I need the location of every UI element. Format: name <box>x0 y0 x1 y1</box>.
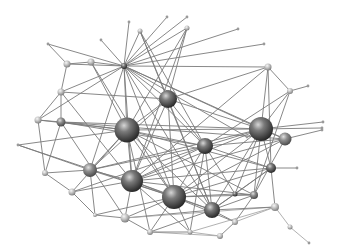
graph-node-sphere <box>159 90 177 108</box>
graph-node-sphere <box>121 63 127 69</box>
graph-edge <box>45 173 72 192</box>
edge-endpoint <box>186 16 189 19</box>
graph-node-sphere <box>271 203 279 211</box>
graph-edge <box>61 64 67 92</box>
graph-node-sphere <box>93 213 97 217</box>
graph-edge <box>168 67 268 99</box>
edge-endpoint <box>296 167 299 170</box>
graph-node-sphere <box>250 191 258 199</box>
edge-endpoint <box>128 21 131 24</box>
graph-node-sphere <box>266 163 276 173</box>
graph-node-sphere <box>217 233 223 239</box>
edge-endpoint <box>17 144 20 147</box>
graph-edge <box>150 232 220 236</box>
graph-node-sphere <box>204 202 220 218</box>
graph-node-sphere <box>288 225 293 230</box>
graph-edge <box>95 197 174 215</box>
graph-node-sphere <box>88 59 95 66</box>
graph-edge <box>95 215 125 218</box>
graph-node-sphere <box>35 117 42 124</box>
graph-edge <box>45 122 61 173</box>
network-graph <box>0 0 340 252</box>
graph-node-sphere <box>147 229 153 235</box>
graph-node-sphere <box>188 230 193 235</box>
edge-endpoint <box>308 242 311 245</box>
graph-edge <box>271 168 275 207</box>
graph-edge <box>67 62 91 64</box>
graph-edge <box>268 67 290 91</box>
graph-node-sphere <box>197 138 213 154</box>
graph-edge <box>124 44 264 66</box>
graph-node-sphere <box>138 29 143 34</box>
graph-node-sphere <box>69 189 76 196</box>
graph-node-sphere <box>233 192 238 197</box>
graph-edge <box>168 28 187 99</box>
graph-edge <box>124 28 187 66</box>
graph-node-sphere <box>83 163 97 177</box>
graph-edge <box>124 66 268 67</box>
graph-edge <box>290 227 309 243</box>
graph-edge <box>101 40 124 66</box>
edge-endpoint <box>166 16 169 19</box>
graph-node-sphere <box>287 88 293 94</box>
nodes-layer <box>35 26 294 240</box>
edge-endpoint <box>321 129 324 132</box>
graph-node-sphere <box>232 219 238 225</box>
graph-node-sphere <box>121 214 130 223</box>
graph-edge <box>38 120 45 173</box>
graph-node-sphere <box>42 170 48 176</box>
graph-node-sphere <box>58 89 65 96</box>
graph-node-sphere <box>162 185 186 209</box>
edge-endpoint <box>100 39 103 42</box>
graph-edge <box>72 192 95 215</box>
graph-edge <box>124 22 129 66</box>
edge-endpoint <box>47 43 50 46</box>
edge-endpoint <box>263 43 266 46</box>
graph-edge <box>18 130 127 145</box>
graph-edge <box>168 99 261 129</box>
edge-endpoint <box>307 85 310 88</box>
graph-node-sphere <box>265 64 272 71</box>
graph-edge <box>38 92 61 120</box>
graph-node-sphere <box>121 170 143 192</box>
graph-edge <box>220 222 235 236</box>
edge-endpoint <box>237 28 240 31</box>
graph-node-sphere <box>279 133 292 146</box>
graph-edge <box>61 66 124 92</box>
edge-endpoint <box>322 121 325 124</box>
graph-node-sphere <box>57 118 66 127</box>
graph-node-sphere <box>115 118 140 143</box>
graph-node-sphere <box>185 26 190 31</box>
edge-endpoint <box>246 136 249 139</box>
graph-edge <box>127 28 187 130</box>
graph-node-sphere <box>249 117 273 141</box>
graph-node-sphere <box>64 61 71 68</box>
